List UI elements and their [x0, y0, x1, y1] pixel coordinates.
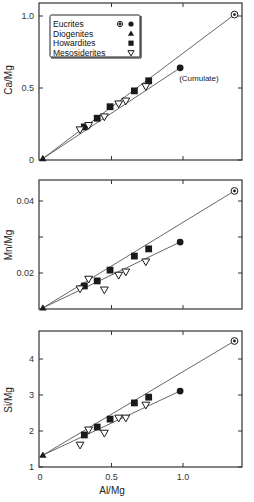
mixing-line	[43, 68, 180, 159]
legend-label: Eucrites	[53, 19, 84, 29]
mixing-line	[43, 341, 235, 455]
mn-mg-panel: 0.020.04Mn/Mg	[3, 180, 242, 311]
y-tick-label: 3	[29, 390, 34, 400]
x-tick-label: 0	[37, 472, 42, 482]
filled-square-marker	[107, 267, 114, 274]
y-tick-label: 0	[29, 155, 34, 165]
filled-square-marker	[131, 400, 138, 407]
filled-square-marker	[145, 245, 152, 252]
filled-triangle-marker	[39, 451, 46, 457]
open-inverted-triangle-marker	[100, 430, 108, 437]
si-mg-panel: 123400.51.0Si/MgAl/Mg	[3, 331, 242, 496]
filled-square-marker	[94, 115, 101, 122]
open-inverted-triangle-marker	[122, 269, 130, 276]
y-tick-label: 1.0	[21, 11, 34, 21]
filled-square-marker	[94, 424, 101, 431]
filled-circle-marker	[177, 239, 184, 246]
y-axis-label: Mn/Mg	[3, 230, 14, 261]
x-tick-label: 1.0	[177, 472, 190, 482]
y-tick-label: 0.5	[21, 83, 34, 93]
open-inverted-triangle-marker	[142, 259, 150, 266]
plot-frame	[39, 180, 242, 309]
circled-dot-center	[233, 190, 236, 193]
mixing-line	[43, 191, 235, 308]
mixing-line	[43, 391, 180, 455]
legend-label: Mesosiderites	[53, 48, 105, 58]
mixing-line	[43, 242, 180, 308]
y-tick-label: 0.04	[16, 196, 34, 206]
filled-circle-marker	[177, 388, 184, 395]
filled-circle-marker	[128, 21, 133, 26]
y-tick-label: 2	[29, 426, 34, 436]
filled-square-marker	[131, 87, 138, 94]
filled-triangle-marker	[39, 155, 46, 161]
x-tick-label: 0.5	[105, 472, 118, 482]
circled-dot-center	[233, 13, 236, 16]
y-tick-label: 4	[29, 354, 34, 364]
filled-square-marker	[145, 394, 152, 401]
filled-square-marker	[107, 103, 114, 110]
filled-square-marker	[81, 432, 88, 439]
plot-frame	[39, 331, 242, 467]
y-axis-label: Ca/Mg	[3, 65, 14, 94]
filled-circle-marker	[177, 64, 184, 71]
open-inverted-triangle-marker	[100, 287, 108, 294]
circled-dot-center	[233, 340, 236, 343]
open-inverted-triangle-marker	[142, 84, 150, 91]
cumulate-annotation: (Cumulate)	[179, 74, 219, 83]
filled-square-marker	[128, 41, 133, 46]
x-axis-label: Al/Mg	[99, 485, 125, 496]
y-tick-label: 1	[29, 462, 34, 472]
y-axis-label: Si/Mg	[3, 387, 14, 413]
filled-square-marker	[131, 253, 138, 260]
open-inverted-triangle-marker	[115, 272, 123, 279]
y-tick-label: 0.02	[16, 268, 34, 278]
open-inverted-triangle-marker	[122, 415, 130, 422]
filled-square-marker	[107, 416, 114, 423]
figure: 00.51.0Ca/Mg(Cumulate) 0.020.04Mn/Mg 123…	[0, 0, 254, 502]
open-inverted-triangle-marker	[76, 442, 84, 449]
filled-triangle-marker	[39, 304, 46, 310]
legend: EucritesDiogenitesHowarditesMesosiderite…	[50, 15, 141, 58]
legend-label: Howardites	[53, 38, 96, 48]
filled-square-marker	[94, 278, 101, 285]
circled-dot-center	[119, 23, 122, 26]
legend-label: Diogenites	[53, 29, 93, 39]
